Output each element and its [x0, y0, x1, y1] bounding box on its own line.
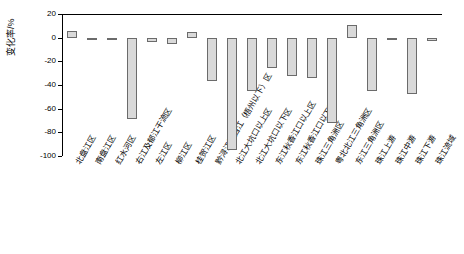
bar [427, 38, 437, 42]
bar [147, 38, 157, 43]
bar [307, 38, 317, 78]
bar [227, 38, 237, 150]
y-tick-mark [58, 38, 62, 39]
chart-figure: 变化率/% 200-20-40-60-80-100北盘江区南盘江区红水河区右江及… [0, 0, 464, 254]
y-tick-label: 20 [16, 10, 56, 18]
y-tick-mark [58, 14, 62, 15]
y-tick-label: -40 [16, 81, 56, 89]
bar [347, 25, 357, 38]
bar [207, 38, 217, 82]
bar [247, 38, 257, 91]
bar [407, 38, 417, 95]
bar [87, 38, 97, 40]
bar [167, 38, 177, 44]
y-tick-label: -80 [16, 128, 56, 136]
bar [127, 38, 137, 120]
y-tick-label: 0 [16, 34, 56, 42]
bar [287, 38, 297, 76]
bar [327, 38, 337, 123]
y-tick-label: -60 [16, 105, 56, 113]
bar [387, 38, 397, 40]
bar [367, 38, 377, 91]
y-tick-mark [58, 61, 62, 62]
bar [107, 38, 117, 40]
bar [187, 32, 197, 38]
bar [67, 31, 77, 38]
y-tick-mark [58, 156, 62, 157]
bar [267, 38, 277, 69]
y-tick-mark [58, 132, 62, 133]
y-tick-mark [58, 109, 62, 110]
y-tick-label: -20 [16, 57, 56, 65]
y-tick-mark [58, 85, 62, 86]
y-tick-label: -100 [16, 152, 56, 160]
